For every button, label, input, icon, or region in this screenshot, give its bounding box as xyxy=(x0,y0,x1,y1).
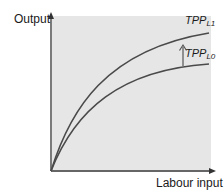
curve-label-main: TPP xyxy=(185,14,206,26)
curve-label-tpp-l1: TPPL1 xyxy=(185,14,215,28)
plot-area-background xyxy=(52,16,211,170)
x-axis-label: Labour input xyxy=(156,176,223,190)
curve-label-main: TPP xyxy=(185,47,206,59)
curve-label-sub: L0 xyxy=(206,52,215,61)
curve-label-tpp-l0: TPPL0 xyxy=(185,47,215,61)
chart-canvas xyxy=(0,0,224,191)
x-axis-arrow-icon xyxy=(209,168,216,174)
y-axis-label: Output xyxy=(14,12,50,26)
curve-label-sub: L1 xyxy=(206,19,215,28)
